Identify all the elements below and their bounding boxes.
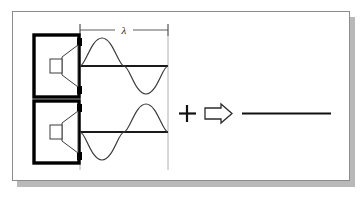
speaker-bottom-name: Speaker 2 [13,182,14,183]
wave-top [80,38,168,94]
speaker-top-magnet [50,59,62,73]
wavelength-label: λ [121,24,127,36]
wave-bottom [80,104,168,160]
wavelength-guide-lines [80,24,168,170]
figure-canvas: λ [12,11,350,181]
figure-root: λ [0,0,362,200]
resultant-name: Flat line (zero amplitude) [13,182,14,183]
yields-arrow-label: ⇨ [13,12,26,15]
diagram-stage: λ [13,12,351,182]
speaker-bottom [34,101,82,163]
wavelength-dimension: λ [80,24,168,36]
figure-title: Destructive interference of two out-of-p… [13,182,14,183]
interference-diagram: λ [13,12,351,182]
speaker-top [34,35,82,97]
speaker-bottom-magnet [50,125,62,139]
speaker-top-name: Speaker 1 [13,182,14,183]
